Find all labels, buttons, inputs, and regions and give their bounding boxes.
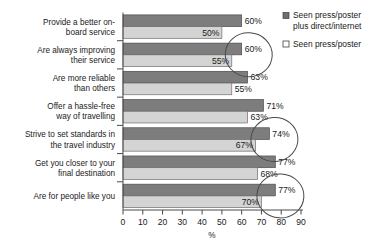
bar-light-row-6 (123, 168, 257, 180)
legend-swatch-2 (283, 41, 289, 47)
x-tick-label-0: 0 (121, 217, 126, 227)
bar-chart: 0102030405060708090% 60%50%60%55%63%55%7… (0, 0, 372, 242)
x-tick-label-20: 20 (158, 217, 168, 227)
bar-dark-row-4 (123, 100, 263, 112)
x-tick-label-50: 50 (217, 217, 227, 227)
x-tick-label-80: 80 (276, 217, 286, 227)
category-label-2: Are always improving (37, 46, 115, 55)
value-label-dark-row-4: 71% (266, 101, 284, 111)
bar-light-row-3 (123, 83, 232, 95)
category-label-4: Offer a hassle-free (47, 102, 115, 111)
category-label-7: Are for people like you (34, 192, 116, 201)
bar-dark-row-5 (123, 128, 269, 140)
category-label-1: Provide a better on- (43, 18, 115, 27)
category-label-6: final destination (58, 169, 115, 178)
bar-dark-row-2 (123, 43, 242, 55)
category-label-3: than others (74, 84, 115, 93)
x-tick-label-10: 10 (138, 217, 148, 227)
x-tick-label-60: 60 (237, 217, 247, 227)
bar-light-row-4 (123, 111, 248, 123)
x-tick-label-70: 70 (257, 217, 267, 227)
category-label-1: board service (66, 28, 116, 37)
category-label-5: the travel industry (50, 141, 116, 150)
chart-legend: Seen press/posterplus direct/internetSee… (283, 10, 362, 49)
value-label-dark-row-1: 60% (245, 16, 263, 26)
bar-dark-row-1 (123, 15, 242, 27)
value-label-dark-row-3: 63% (251, 72, 269, 82)
x-axis-title: % (208, 231, 215, 240)
legend-label-1: Seen press/poster (293, 10, 361, 20)
category-label-6: Get you closer to your (35, 159, 115, 168)
category-label-5: Strive to set standards in (25, 130, 116, 139)
bar-dark-row-6 (123, 156, 275, 168)
legend-swatch-1 (283, 13, 289, 19)
x-tick-label-30: 30 (178, 217, 188, 227)
value-label-light-row-4: 63% (251, 112, 269, 122)
value-label-dark-row-5: 74% (272, 129, 290, 139)
category-labels-layer: Provide a better on-board serviceAre alw… (25, 18, 116, 201)
bar-dark-row-7 (123, 184, 275, 196)
value-label-dark-row-2: 60% (245, 44, 263, 54)
value-label-light-row-3: 55% (235, 84, 253, 94)
legend-label-1: plus direct/internet (293, 21, 362, 31)
category-label-2: their service (71, 56, 116, 65)
category-label-3: Are more reliable (53, 74, 116, 83)
chart-canvas: 0102030405060708090% 60%50%60%55%63%55%7… (0, 0, 372, 242)
category-label-4: way of travelling (55, 112, 115, 121)
x-tick-label-40: 40 (197, 217, 207, 227)
bar-dark-row-3 (123, 71, 248, 83)
legend-label-2: Seen press/poster (293, 39, 361, 49)
x-tick-label-90: 90 (296, 217, 306, 227)
value-label-dark-row-7: 77% (278, 185, 296, 195)
value-label-light-row-6: 68% (260, 169, 278, 179)
bar-light-row-7 (123, 196, 261, 208)
value-label-light-row-1: 50% (202, 28, 220, 38)
